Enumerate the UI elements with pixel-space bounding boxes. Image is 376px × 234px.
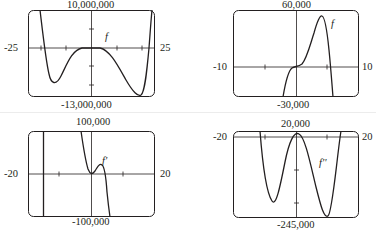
graph-panel-f-zoomed: 60,000 -10 10 -30,000 f xyxy=(186,0,376,116)
graph-panel-f-prime: 100,000 -20 20 -100,000 f' xyxy=(0,117,186,234)
plot-area xyxy=(0,117,186,234)
plot-area xyxy=(186,0,376,116)
graph-panel-f: 10,000,000 -25 25 -13,000,000 f xyxy=(0,0,186,116)
graph-panel-f-double-prime: 20,000 -20 20 -245,000 f'' xyxy=(186,117,376,234)
plot-area xyxy=(186,117,376,234)
plot-area xyxy=(0,0,186,116)
